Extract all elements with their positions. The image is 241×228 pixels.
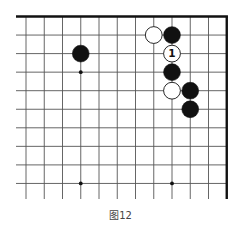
- go-board: 1: [0, 0, 241, 205]
- black-stone: [182, 101, 199, 118]
- star-point: [170, 182, 174, 186]
- move-number: 1: [168, 47, 175, 59]
- black-stone: [72, 45, 89, 62]
- figure-caption: 图12: [0, 207, 241, 222]
- black-stone: [164, 27, 181, 44]
- black-stone: [164, 64, 181, 81]
- black-stone: [182, 82, 199, 99]
- white-stone: [164, 82, 181, 99]
- white-stone-move-1: 1: [164, 45, 181, 62]
- white-stone: [145, 27, 162, 44]
- star-point: [79, 70, 83, 74]
- star-point: [79, 182, 83, 186]
